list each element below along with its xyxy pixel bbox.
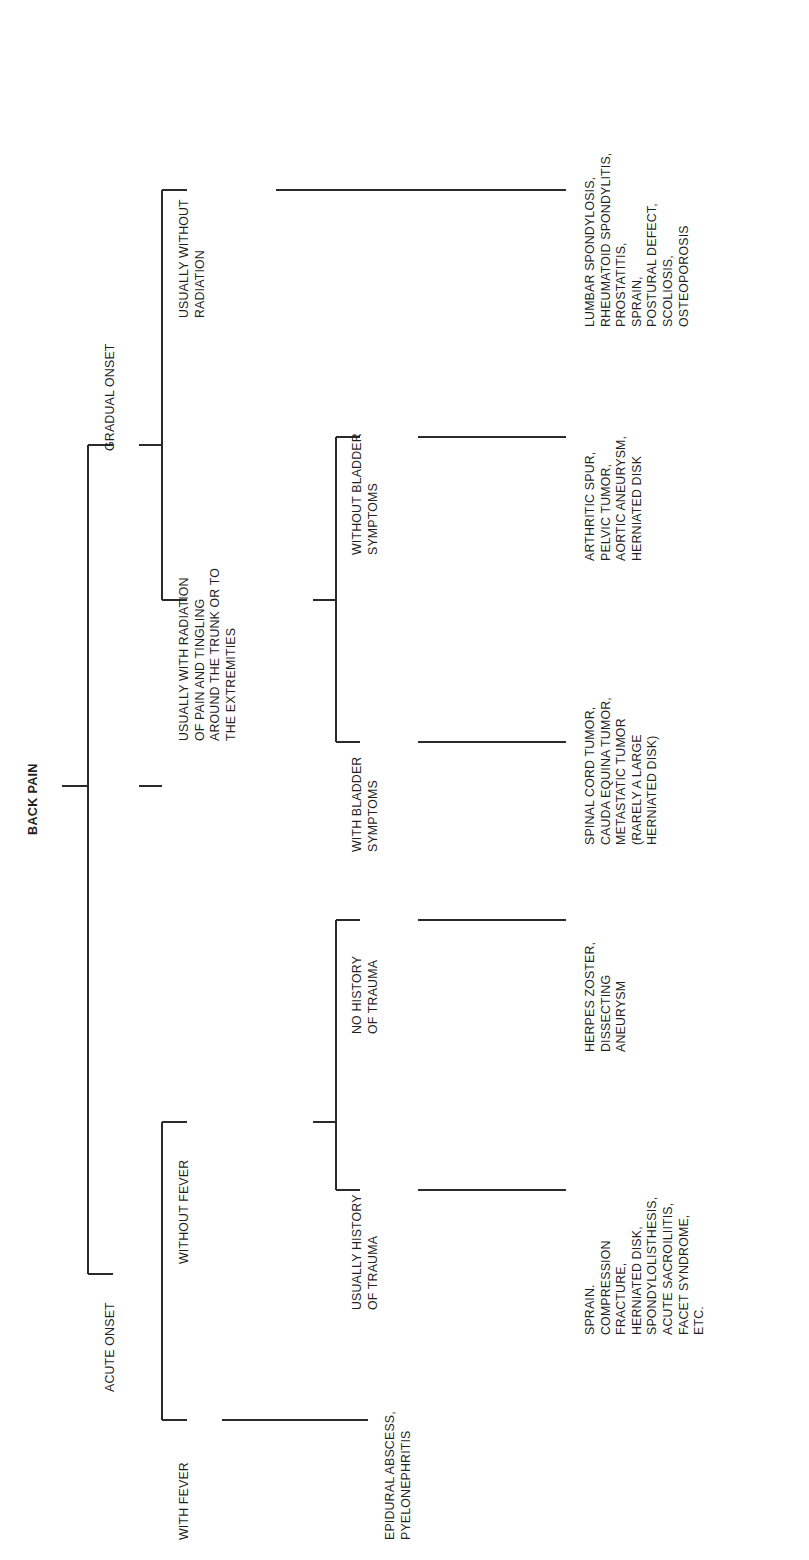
node-usually-history-of-trauma: USUALLY HISTORY OF TRAUMA <box>350 1194 381 1310</box>
leaf-bladder-symptom-causes: SPINAL CORD TUMOR, CAUDA EQUINA TUMOR, M… <box>583 697 661 845</box>
node-acute-onset: ACUTE ONSET <box>103 1302 119 1392</box>
node-usually-with-radiation: USUALLY WITH RADIATION OF PAIN AND TINGL… <box>177 568 239 741</box>
leaf-no-trauma-causes: HERPES ZOSTER, DISSECTING ANEURYSM <box>583 942 630 1052</box>
node-without-bladder-symptoms: WITHOUT BLADDER SYMPTOMS <box>350 433 381 555</box>
leaf-trauma-causes: SPRAIN. COMPRESSION FRACTURE, HERNIATED … <box>583 1197 708 1335</box>
node-gradual-onset: GRADUAL ONSET <box>103 343 119 451</box>
node-without-fever: WITHOUT FEVER <box>177 1160 193 1264</box>
leaf-epidural-abscess-pyelonephritis: EPIDURAL ABSCESS, PYELONEPHRITIS <box>383 1411 414 1540</box>
node-with-fever: WITH FEVER <box>177 1462 193 1540</box>
root-label-back-pain: BACK PAIN <box>26 763 42 835</box>
leaf-no-bladder-symptom-causes: ARTHRITIC SPUR, PELVIC TUMOR, AORTIC ANE… <box>583 436 645 561</box>
leaf-without-radiation-causes: LUMBAR SPONDYLOSIS, RHEUMATOID SPONDYLIT… <box>583 153 692 327</box>
node-no-history-of-trauma: NO HISTORY OF TRAUMA <box>350 956 381 1034</box>
node-usually-without-radiation: USUALLY WITHOUT RADIATION <box>177 199 208 318</box>
node-with-bladder-symptoms: WITH BLADDER SYMPTOMS <box>350 757 381 852</box>
diagram-canvas: BACK PAIN ACUTE ONSET GRADUAL ONSET WITH… <box>0 0 809 1560</box>
